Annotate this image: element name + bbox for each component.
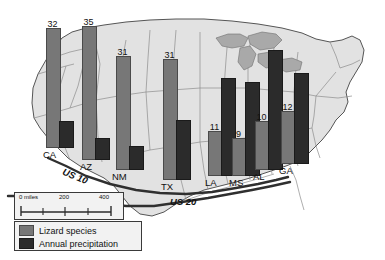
precipitation-bar-ca: [59, 121, 74, 148]
lizard-precipitation-map-figure: US 10 US 20 32CA35AZ31NM31TX11LA9MS10AL1…: [0, 0, 385, 260]
state-label-nm: NM: [112, 172, 127, 182]
legend-swatch-icon-species: [19, 225, 34, 236]
precipitation-bar-az: [95, 138, 110, 160]
scale-bar-ruler: [15, 204, 123, 217]
legend-label-species: Lizard species: [39, 226, 97, 236]
legend-label-precip: Annual precipitation: [39, 239, 118, 249]
scale-mid-label: 200: [59, 194, 69, 201]
precipitation-bar-ga: [294, 73, 309, 164]
bar-group-al: [255, 0, 281, 170]
legend-item-annual-precipitation: Annual precipitation: [15, 237, 141, 250]
state-label-tx: TX: [161, 182, 173, 192]
state-label-ga: GA: [279, 166, 293, 176]
scale-max-label: 400: [99, 194, 109, 201]
bar-value-la: 11: [208, 123, 221, 132]
state-label-ca: CA: [43, 150, 56, 160]
bar-value-nm: 31: [116, 48, 129, 57]
scale-bar-labels: 0 miles 200 400: [15, 194, 123, 203]
bar-value-al: 10: [255, 113, 268, 122]
scale-zero-label: 0 miles: [19, 194, 38, 201]
bar-group-la: [208, 0, 234, 176]
state-label-la: LA: [205, 178, 217, 188]
precipitation-bar-nm: [129, 146, 144, 170]
bar-value-tx: 31: [163, 51, 176, 60]
state-label-al: AL: [253, 172, 265, 182]
bar-value-ga: 12: [281, 103, 294, 112]
bar-group-tx: [163, 0, 189, 180]
bar-value-ms: 9: [232, 130, 245, 139]
legend: Lizard species Annual precipitation: [14, 221, 142, 251]
state-label-az: AZ: [80, 162, 92, 172]
bar-value-az: 35: [82, 18, 95, 27]
bar-group-ga: [281, 0, 307, 164]
bar-value-ca: 32: [46, 20, 59, 29]
us-20-label: US 20: [170, 196, 196, 207]
legend-swatch-icon-precip: [19, 238, 34, 249]
precipitation-bar-tx: [176, 120, 191, 180]
legend-item-lizard-species: Lizard species: [15, 224, 141, 237]
bar-group-nm: [116, 0, 142, 170]
state-label-ms: MS: [229, 178, 243, 188]
scale-bar: 0 miles 200 400: [14, 192, 124, 220]
